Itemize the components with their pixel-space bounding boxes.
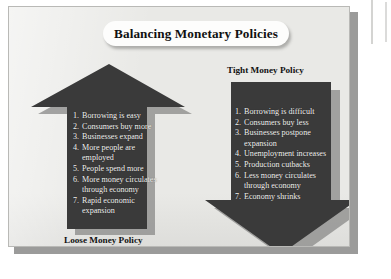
up-arrow-item-list: Borrowing is easy Consumers buy more Bus… [69,111,159,217]
list-item: Production cutbacks [243,160,331,171]
list-item: Consumers buy less [243,118,331,129]
list-item: Less money circulates through economy [243,171,331,192]
scan-edge-artifact-left [371,0,373,44]
list-item: Borrowing is difficult [243,107,331,118]
list-item: Unemployment increases [243,149,331,160]
list-item: People spend more [81,164,159,175]
down-arrow-item-list: Borrowing is difficult Consumers buy les… [231,107,331,202]
list-item: Borrowing is easy [81,111,159,122]
page-title: Balancing Monetary Policies [114,26,278,42]
diagram-panel: Borrowing is easy Consumers buy more Bus… [8,6,350,247]
loose-money-policy-label: Loose Money Policy [64,235,143,245]
title-pill: Balancing Monetary Policies [103,21,289,46]
list-item: Businesses postpone expansion [243,128,331,149]
list-item: Consumers buy more [81,122,159,133]
list-item: More people are employed [81,143,159,164]
scan-edge-artifact-right [385,2,387,42]
list-item: Rapid economic expansion [81,196,159,217]
list-item: More money circulates through economy [81,175,159,196]
list-item: Economy shrinks [243,192,331,203]
tight-money-policy-label: Tight Money Policy [227,65,304,75]
figure-root: Borrowing is easy Consumers buy more Bus… [0,0,391,279]
list-item: Businesses expand [81,132,159,143]
